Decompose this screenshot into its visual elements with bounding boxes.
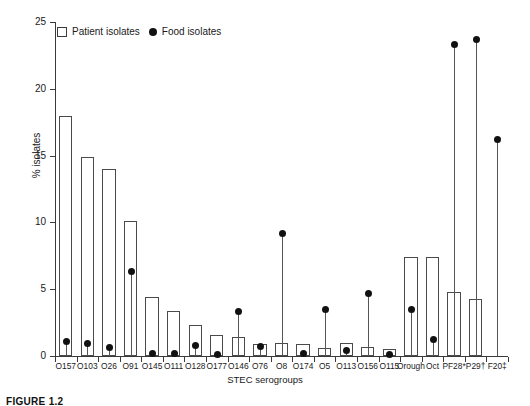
point-food-isolates <box>494 136 501 143</box>
y-axis-tick <box>50 89 56 90</box>
filled-circle-marker-icon <box>149 28 157 36</box>
figure-container: 0510152025 % isolates O157O103O26O91O145… <box>0 0 530 406</box>
legend-label-food: Food isolates <box>162 26 221 37</box>
x-axis-tick-label: F20‡ <box>475 362 519 371</box>
point-food-isolates <box>386 351 393 358</box>
stem-food-isolates <box>476 39 477 356</box>
y-axis-line <box>55 22 56 357</box>
stem-food-isolates <box>282 233 283 356</box>
y-axis-tick <box>50 222 56 223</box>
open-square-marker-icon <box>57 27 67 37</box>
bar-patient-isolates <box>81 157 94 356</box>
y-axis-tick <box>50 22 56 23</box>
point-food-isolates <box>192 342 199 349</box>
legend-item-patient: Patient isolates <box>57 26 140 37</box>
point-food-isolates <box>279 230 286 237</box>
y-axis-tick <box>50 289 56 290</box>
y-axis-title: % isolates <box>31 111 42 201</box>
stem-food-isolates <box>411 309 412 356</box>
point-food-isolates <box>171 350 178 357</box>
chart-legend: Patient isolates Food isolates <box>57 26 221 37</box>
y-axis-tick-label: 0 <box>0 351 46 361</box>
bar-patient-isolates <box>145 297 158 356</box>
point-food-isolates <box>322 306 329 313</box>
y-axis-tick-label: 10 <box>0 217 46 227</box>
point-food-isolates <box>365 290 372 297</box>
figure-caption: FIGURE 1.2 <box>6 396 63 406</box>
x-axis-title: STEC serogroups <box>0 374 530 385</box>
y-axis-tick-label: 5 <box>0 284 46 294</box>
point-food-isolates <box>300 350 307 357</box>
legend-label-patient: Patient isolates <box>72 26 140 37</box>
point-food-isolates <box>63 338 70 345</box>
stem-food-isolates <box>497 140 498 356</box>
y-axis-tick-label: 25 <box>0 17 46 27</box>
bar-patient-isolates <box>102 169 115 356</box>
stem-food-isolates <box>238 312 239 356</box>
stem-food-isolates <box>325 309 326 356</box>
stem-food-isolates <box>454 45 455 356</box>
point-food-isolates <box>408 306 415 313</box>
stem-food-isolates <box>368 293 369 356</box>
bar-patient-isolates <box>59 116 72 356</box>
point-food-isolates <box>473 36 480 43</box>
legend-item-food: Food isolates <box>149 26 221 37</box>
x-axis-line <box>55 356 508 357</box>
y-axis-tick <box>50 156 56 157</box>
point-food-isolates <box>214 351 221 358</box>
point-food-isolates <box>149 350 156 357</box>
y-axis-tick-label: 20 <box>0 84 46 94</box>
stem-food-isolates <box>131 272 132 356</box>
